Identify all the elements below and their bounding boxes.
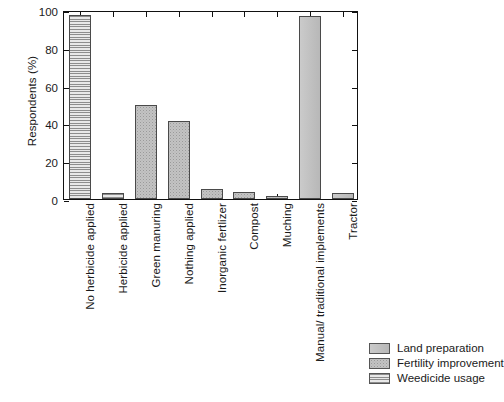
legend-item: Fertility improvement: [369, 356, 499, 370]
bar: [201, 189, 223, 199]
x-tick-label: Tractor: [347, 203, 359, 240]
bar: [135, 105, 157, 200]
chart-legend: Land preparationFertility improvementWee…: [369, 341, 499, 386]
y-tick-label: 40: [45, 119, 58, 131]
x-tick-label: Nothing applied: [183, 203, 195, 284]
y-axis-title: Respondents (%): [26, 21, 38, 181]
legend-swatch: [369, 343, 390, 354]
x-tick-label: Green manuring: [150, 203, 162, 288]
legend-label: Fertility improvement: [397, 357, 504, 369]
x-axis-category-labels: No herbicide appliedHerbicide appliedGre…: [63, 203, 358, 343]
bar: [233, 192, 255, 199]
y-tick-mark: [64, 201, 69, 202]
y-tick-label: 20: [45, 157, 58, 169]
y-tick-label: 0: [52, 195, 58, 207]
legend-swatch: [369, 373, 390, 384]
bar: [69, 15, 91, 199]
legend-label: Weedicide usage: [397, 372, 485, 384]
x-tick-label: No herbicide applied: [84, 203, 96, 310]
legend-label: Land preparation: [397, 342, 484, 354]
legend-item: Weedicide usage: [369, 371, 499, 385]
x-tick-label: Inorganic fertlizer: [216, 203, 228, 293]
legend-item: Land preparation: [369, 341, 499, 355]
bar: [332, 193, 354, 199]
bar: [102, 193, 124, 199]
legend-swatch: [369, 358, 390, 369]
x-tick-label: Herbicide applied: [117, 203, 129, 294]
bar-series: [64, 12, 357, 199]
x-tick-label: Muching: [281, 203, 293, 247]
y-tick-label: 60: [45, 82, 58, 94]
bar: [168, 121, 190, 199]
x-tick-label: Manual/ traditional implements: [314, 203, 326, 362]
plot-area: 020406080100: [63, 11, 358, 200]
bar: [266, 196, 288, 199]
y-tick-label: 100: [39, 6, 58, 18]
bar: [299, 16, 321, 199]
x-tick-label: Compost: [248, 203, 260, 250]
y-tick-label: 80: [45, 44, 58, 56]
